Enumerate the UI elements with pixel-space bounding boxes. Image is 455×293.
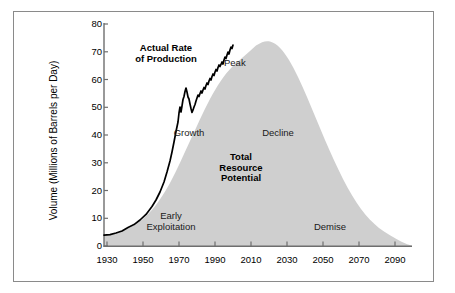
annotation-growth: Growth [165, 128, 213, 139]
plot-area [0, 0, 455, 293]
annotation-early-exploitation: Early Exploitation [133, 211, 209, 232]
annotation-peak: Peak [224, 58, 260, 69]
annotation-decline: Decline [253, 128, 303, 139]
annotation-total-resource-potential: Total Resource Potential [196, 152, 286, 184]
annotation-actual-rate-of-production: Actual Rate of Production [120, 43, 212, 64]
annotation-demise: Demise [305, 222, 355, 233]
peak-oil-chart-figure: Volume (Millions of Barrels per Day) 80 … [0, 0, 455, 293]
